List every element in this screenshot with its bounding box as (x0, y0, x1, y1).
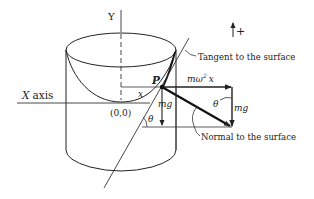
tangent-label: Tangent to the surface (198, 52, 295, 62)
cylinder-bottom (66, 150, 176, 171)
paraboloid-surface-front (163, 52, 175, 87)
y-axis-label: Y (107, 11, 115, 22)
positive-direction-label: + (236, 25, 245, 38)
x-axis-label: Xaxis (21, 89, 53, 101)
rotating-fluid-diagram: Y Xaxis (0,0) x Tangent to the surface P… (0, 0, 314, 199)
centrifugal-force-label: mω2x (187, 72, 214, 84)
point-p-label: P (151, 74, 161, 86)
angle-arc-triangle (220, 97, 232, 100)
tangent-leader (185, 50, 196, 56)
normal-label: Normal to the surface (201, 132, 296, 142)
angle-lower-label: θ (148, 114, 154, 124)
normal-leader (192, 108, 200, 136)
weight-small-label: mg (158, 99, 173, 109)
angle-triangle-label: θ (213, 99, 219, 109)
distance-label: x (138, 89, 143, 99)
origin-label: (0,0) (110, 108, 131, 118)
weight-triangle-label: mg (234, 103, 249, 113)
